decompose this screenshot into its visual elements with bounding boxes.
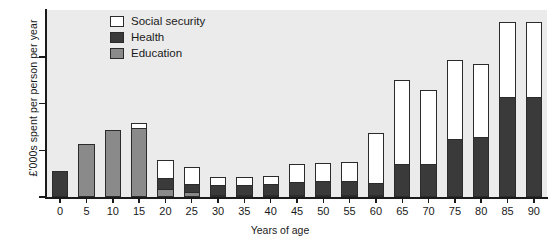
x-axis-title: Years of age (0, 224, 560, 236)
segment-education (289, 195, 305, 197)
bar-45 (289, 163, 305, 197)
bar-55 (341, 161, 357, 197)
bar-85 (499, 21, 515, 197)
chart-figure: £'000s spent per person per year Years o… (0, 0, 560, 249)
segment-health (420, 164, 436, 197)
chart-legend: Social securityHealthEducation (110, 14, 205, 61)
x-tick-mark (112, 199, 114, 203)
x-tick-mark (86, 199, 88, 203)
bar-80 (473, 63, 489, 197)
bar-90 (526, 21, 542, 197)
x-tick-mark (402, 199, 404, 203)
legend-item: Health (110, 30, 205, 45)
legend-item: Education (110, 46, 205, 61)
segment-health (499, 97, 515, 198)
segment-social-security (368, 133, 384, 184)
segment-education (78, 144, 94, 197)
bar-10 (105, 130, 121, 197)
segment-health (526, 97, 542, 198)
x-tick-mark (138, 199, 140, 203)
x-tick-mark (165, 199, 167, 203)
y-tick-mark (39, 196, 45, 198)
bar-20 (157, 158, 173, 197)
y-tick-mark (39, 103, 45, 105)
segment-education (341, 195, 357, 197)
segment-social-security (315, 163, 331, 182)
bar-70 (420, 89, 436, 197)
x-tick-mark (296, 199, 298, 203)
x-tick-mark (349, 199, 351, 203)
segment-health (315, 181, 331, 196)
segment-social-security (526, 22, 542, 98)
x-tick-mark (270, 199, 272, 203)
legend-label: Social security (131, 16, 205, 28)
segment-social-security (184, 167, 200, 185)
segment-education (210, 195, 226, 197)
y-tick-mark (39, 56, 45, 58)
bar-75 (447, 59, 463, 197)
x-tick-mark (480, 199, 482, 203)
segment-education (184, 192, 200, 197)
bar-30 (210, 175, 226, 197)
segment-social-security (341, 162, 357, 182)
x-tick-mark (375, 199, 377, 203)
x-tick-mark (59, 199, 61, 203)
y-axis-line (45, 9, 47, 198)
segment-education (315, 195, 331, 197)
bar-15 (131, 122, 147, 197)
segment-social-security (157, 160, 173, 179)
segment-education (236, 195, 252, 197)
bar-40 (263, 175, 279, 197)
legend-label: Education (131, 48, 182, 60)
bar-50 (315, 162, 331, 197)
legend-swatch-icon (110, 48, 124, 59)
segment-health (341, 181, 357, 196)
segment-social-security (473, 64, 489, 139)
x-tick-label: 90 (519, 205, 549, 217)
x-tick-mark (244, 199, 246, 203)
x-tick-mark (323, 199, 325, 203)
segment-health (473, 137, 489, 197)
y-tick-mark (39, 150, 45, 152)
segment-education (368, 195, 384, 197)
bar-25 (184, 165, 200, 197)
segment-education (157, 189, 173, 197)
segment-health (394, 164, 410, 197)
segment-social-security (289, 164, 305, 183)
bar-35 (236, 176, 252, 197)
legend-swatch-icon (110, 16, 124, 27)
bar-0 (52, 171, 68, 197)
segment-education (105, 130, 121, 197)
segment-health (289, 182, 305, 196)
segment-social-security (499, 22, 515, 98)
bar-5 (78, 144, 94, 197)
legend-item: Social security (110, 14, 205, 29)
x-tick-mark (454, 199, 456, 203)
segment-social-security (394, 80, 410, 165)
segment-social-security (447, 60, 463, 139)
x-tick-mark (191, 199, 193, 203)
legend-swatch-icon (110, 32, 124, 43)
segment-social-security (420, 90, 436, 165)
x-tick-mark (533, 199, 535, 203)
segment-education (131, 128, 147, 197)
y-axis-title: £'000s spent per person per year (27, 0, 39, 198)
segment-education (263, 195, 279, 197)
x-tick-mark (428, 199, 430, 203)
bar-65 (394, 79, 410, 197)
segment-health (52, 171, 68, 197)
x-tick-mark (217, 199, 219, 203)
segment-health (447, 139, 463, 197)
x-tick-mark (507, 199, 509, 203)
legend-label: Health (131, 32, 164, 44)
bar-60 (368, 132, 384, 197)
